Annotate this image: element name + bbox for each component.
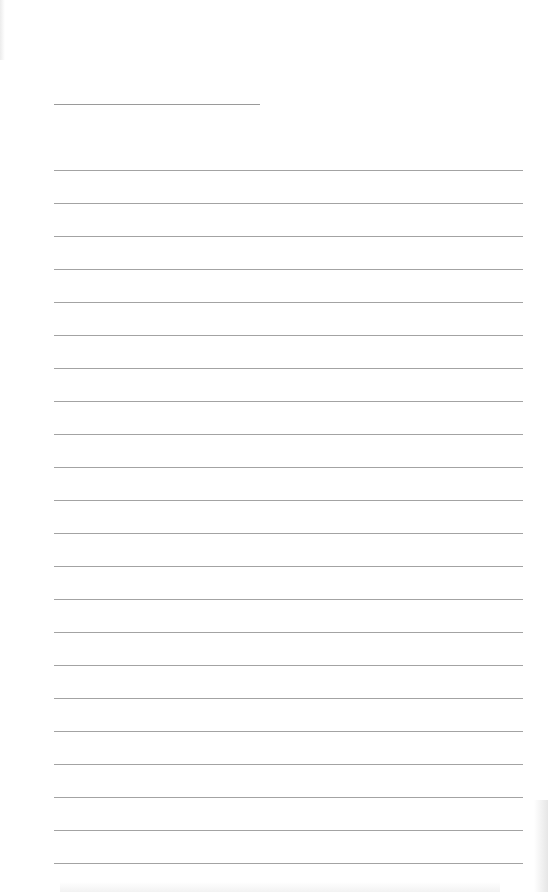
ruled-line	[54, 731, 523, 732]
title-line	[54, 104, 260, 105]
ruled-line	[54, 500, 523, 501]
ruled-line	[54, 236, 523, 237]
ruled-line	[54, 830, 523, 831]
ruled-line	[54, 401, 523, 402]
ruled-line	[54, 269, 523, 270]
ruled-line	[54, 632, 523, 633]
lined-paper-page	[0, 0, 548, 892]
ruled-line	[54, 434, 523, 435]
ruled-line	[54, 566, 523, 567]
ruled-line	[54, 368, 523, 369]
ruled-line	[54, 698, 523, 699]
ruled-line	[54, 302, 523, 303]
ruled-line	[54, 665, 523, 666]
ruled-line	[54, 203, 523, 204]
bottom-shadow	[60, 882, 500, 892]
ruled-line	[54, 599, 523, 600]
ruled-line	[54, 764, 523, 765]
ruled-line	[54, 170, 523, 171]
ruled-line	[54, 467, 523, 468]
ruled-line	[54, 797, 523, 798]
ruled-line	[54, 533, 523, 534]
page-edge-shadow	[0, 0, 5, 60]
ruled-line	[54, 863, 523, 864]
ruled-line	[54, 335, 523, 336]
page-edge-shadow-right	[534, 800, 548, 892]
